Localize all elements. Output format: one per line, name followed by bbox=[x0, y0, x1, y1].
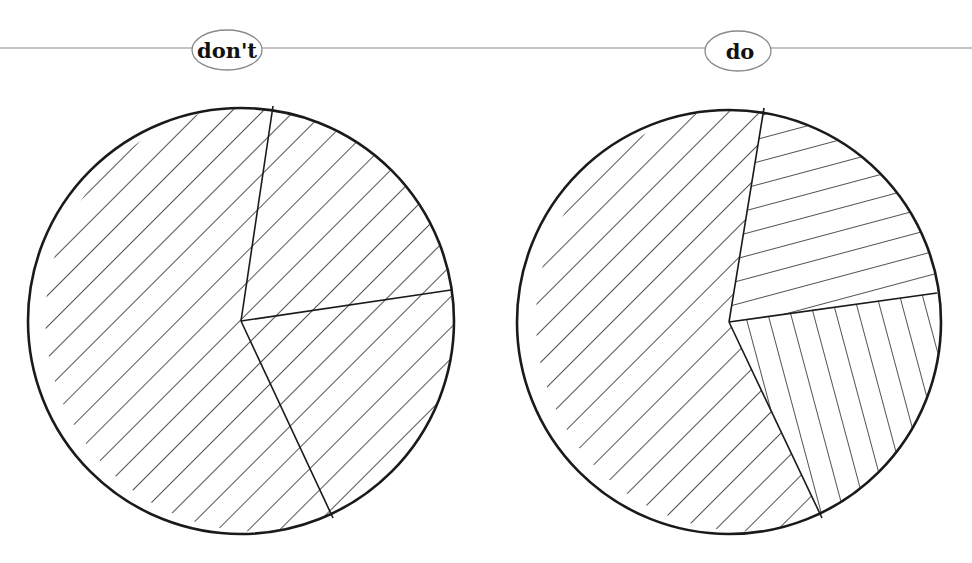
label-badge-dont: don't bbox=[192, 30, 262, 70]
panel-dont: don't bbox=[28, 30, 454, 534]
slice-top-right bbox=[241, 106, 451, 321]
pie-comparison-diagram: don't do bbox=[0, 0, 972, 563]
panel-do: do bbox=[517, 31, 941, 534]
pie-dont bbox=[45, 105, 454, 531]
label-dont: don't bbox=[197, 38, 257, 63]
label-do: do bbox=[726, 39, 755, 64]
slice-top-right bbox=[729, 108, 937, 322]
label-badge-do: do bbox=[705, 31, 771, 71]
